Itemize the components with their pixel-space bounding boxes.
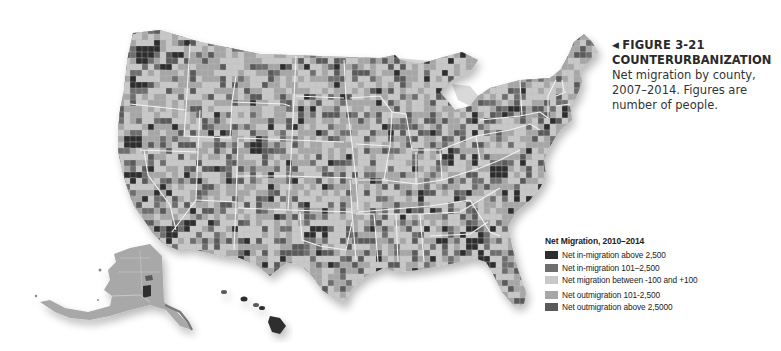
legend-item-neutral: Net migration between -100 and +100 bbox=[545, 274, 745, 287]
legend-item-in-mid: Net in-migration 101–2,500 bbox=[545, 262, 745, 275]
legend-label: Net outmigration above 2,5000 bbox=[562, 302, 673, 312]
figure-number-text: FIGURE 3-21 bbox=[622, 38, 705, 53]
legend-item-in-high: Net in-migration above 2,500 bbox=[545, 249, 745, 262]
figure-description-line: Net migration by county, bbox=[612, 68, 781, 83]
legend-swatch bbox=[545, 276, 558, 284]
figure-description-line: number of people. bbox=[612, 98, 781, 113]
contiguous-us bbox=[112, 28, 604, 320]
figure-description-line: 2007–2014. Figures are bbox=[612, 83, 781, 98]
legend-item-out-high: Net outmigration above 2,5000 bbox=[545, 301, 745, 314]
hawaii-inset bbox=[221, 290, 286, 334]
figure-number: ◀ FIGURE 3-21 bbox=[612, 38, 781, 53]
alaska-inset bbox=[35, 244, 192, 330]
map-legend: Net Migration, 2010–2014 Net in-migratio… bbox=[545, 236, 745, 314]
legend-swatch bbox=[545, 264, 558, 272]
legend-label: Net in-migration above 2,500 bbox=[562, 250, 666, 260]
figure-caption: ◀ FIGURE 3-21 COUNTERURBANIZATION Net mi… bbox=[612, 38, 781, 113]
legend-swatch bbox=[545, 303, 558, 311]
legend-label: Net in-migration 101–2,500 bbox=[562, 263, 660, 273]
legend-swatch bbox=[545, 291, 558, 299]
legend-label: Net migration between -100 and +100 bbox=[562, 275, 698, 285]
legend-item-out-mid: Net outmigration 101-2,500 bbox=[545, 289, 745, 302]
legend-swatch bbox=[545, 251, 558, 259]
figure-title: COUNTERURBANIZATION bbox=[612, 53, 781, 68]
legend-label: Net outmigration 101-2,500 bbox=[562, 290, 660, 300]
left-triangle-icon: ◀ bbox=[612, 38, 619, 53]
legend-title: Net Migration, 2010–2014 bbox=[545, 236, 745, 246]
